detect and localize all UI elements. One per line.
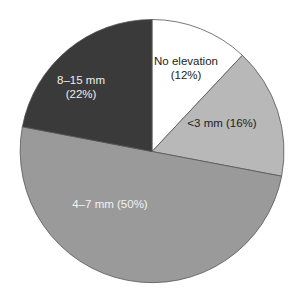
pie-chart: No elevation(12%)<3 mm (16%)4–7 mm (50%)… bbox=[0, 0, 302, 302]
pie-slices bbox=[20, 20, 284, 283]
slice-label: <3 mm (16%) bbox=[187, 117, 257, 129]
slice-label: 4–7 mm (50%) bbox=[72, 198, 148, 210]
